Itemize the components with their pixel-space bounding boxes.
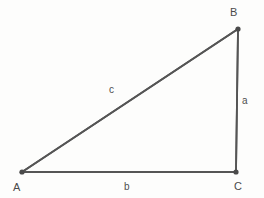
vertex-dot-a bbox=[19, 169, 24, 174]
vertex-dot-b bbox=[235, 26, 240, 31]
side-c-hypotenuse-line bbox=[22, 29, 238, 172]
vertex-label-a: A bbox=[13, 182, 20, 193]
vertex-label-b: B bbox=[230, 7, 237, 18]
triangle-figure bbox=[0, 0, 264, 198]
side-label-c: c bbox=[109, 85, 114, 95]
vertex-label-c: C bbox=[234, 181, 242, 192]
vertex-dot-c bbox=[233, 169, 238, 174]
side-label-a: a bbox=[242, 96, 248, 106]
side-a-vertical-line bbox=[236, 29, 238, 172]
side-label-b: b bbox=[124, 182, 130, 192]
triangle-diagram-canvas: A B C a b c bbox=[0, 0, 264, 198]
